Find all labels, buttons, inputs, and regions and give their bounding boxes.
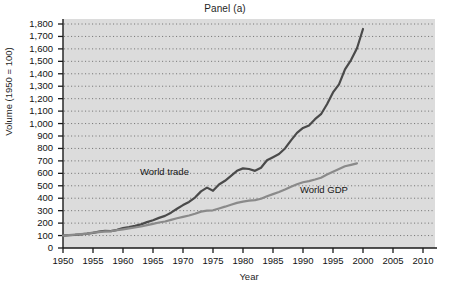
series-label-world-trade: World trade: [140, 166, 189, 177]
y-axis-tick-label: 1,700: [19, 31, 53, 41]
y-axis-tick-label: 200: [19, 218, 53, 228]
y-axis-ticks: [58, 24, 63, 248]
x-axis-title: Year: [63, 271, 435, 282]
series-lines: [63, 29, 363, 236]
y-axis-tick-label: 900: [19, 131, 53, 141]
series-label-world-gdp: World GDP: [300, 184, 348, 195]
y-axis-tick-label: 1,400: [19, 69, 53, 79]
y-axis-tick-label: 1,800: [19, 19, 53, 29]
y-axis-tick-label: 1,200: [19, 94, 53, 104]
chart-container: Panel (a) Volume (1950 = 100) 0100200300…: [0, 0, 450, 289]
y-axis-tick-label: 700: [19, 156, 53, 166]
series-line: [63, 29, 363, 236]
y-axis-tick-label: 0: [19, 243, 53, 253]
y-axis-tick-label: 400: [19, 193, 53, 203]
series-line: [63, 163, 357, 235]
gridlines: [64, 24, 435, 236]
x-axis-ticks: [63, 248, 423, 253]
y-axis-tick-label: 800: [19, 143, 53, 153]
chart-plot: [0, 0, 450, 289]
y-axis-tick-label: 600: [19, 168, 53, 178]
y-axis-tick-label: 1,100: [19, 106, 53, 116]
y-axis-tick-label: 300: [19, 206, 53, 216]
y-axis-tick-label: 500: [19, 181, 53, 191]
x-axis-tick-label: 2010: [403, 256, 443, 266]
y-axis-tick-label: 1,300: [19, 81, 53, 91]
y-axis-tick-label: 1,500: [19, 56, 53, 66]
y-axis-tick-label: 1,600: [19, 44, 53, 54]
y-axis-tick-label: 1,000: [19, 119, 53, 129]
y-axis-tick-label: 100: [19, 231, 53, 241]
